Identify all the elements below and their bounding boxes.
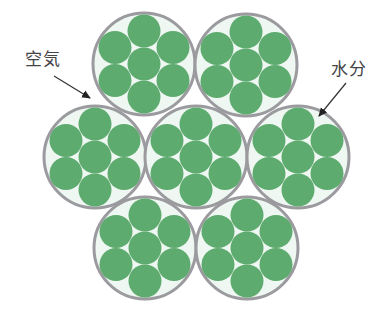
fiber <box>230 82 263 115</box>
fiber <box>231 265 264 298</box>
fiber-bundle <box>195 14 297 116</box>
fiber <box>129 199 162 232</box>
fiber <box>260 248 293 281</box>
fiber <box>253 157 286 190</box>
fiber <box>128 15 161 48</box>
fiber <box>50 157 83 190</box>
fiber <box>259 32 292 65</box>
fiber <box>209 157 242 190</box>
fiber <box>99 31 132 64</box>
fiber <box>253 124 286 157</box>
fiber <box>99 64 132 97</box>
fiber <box>157 31 190 64</box>
fiber <box>128 81 161 114</box>
fiber <box>202 215 235 248</box>
moisture-label: 水分 <box>331 55 367 80</box>
fiber-bundle <box>196 197 298 299</box>
air-label: 空気 <box>25 45 61 70</box>
fiber <box>180 174 213 207</box>
bundles-group <box>44 13 349 299</box>
air-arrow-icon <box>54 76 90 98</box>
fiber <box>157 64 190 97</box>
fiber-bundle <box>145 106 247 208</box>
fiber <box>282 141 315 174</box>
fiber <box>311 157 344 190</box>
fiber <box>231 199 264 232</box>
fiber <box>108 157 141 190</box>
fiber <box>100 248 133 281</box>
fiber <box>180 108 213 141</box>
fiber <box>158 215 191 248</box>
fiber <box>151 124 184 157</box>
fiber-bundle <box>94 197 196 299</box>
fiber <box>129 232 162 265</box>
fiber <box>129 265 162 298</box>
fiber <box>128 48 161 81</box>
fiber <box>50 124 83 157</box>
moisture-arrow-icon <box>319 83 346 116</box>
fiber <box>230 49 263 82</box>
fiber <box>282 108 315 141</box>
fiber <box>201 32 234 65</box>
fiber <box>201 65 234 98</box>
fiber-bundle <box>247 106 349 208</box>
fiber <box>311 124 344 157</box>
fiber <box>231 232 264 265</box>
fiber <box>151 157 184 190</box>
fiber <box>202 248 235 281</box>
fiber <box>209 124 242 157</box>
fiber <box>158 248 191 281</box>
fiber <box>79 141 112 174</box>
fiber <box>260 215 293 248</box>
fiber <box>180 141 213 174</box>
fiber <box>230 16 263 49</box>
fiber <box>282 174 315 207</box>
fiber <box>79 174 112 207</box>
fiber <box>100 215 133 248</box>
fiber <box>259 65 292 98</box>
fiber <box>79 108 112 141</box>
fiber-bundle <box>44 106 146 208</box>
fiber-bundle <box>93 13 195 115</box>
fiber <box>108 124 141 157</box>
